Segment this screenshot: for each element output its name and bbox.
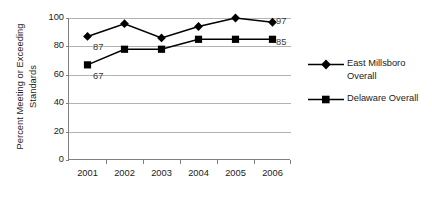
y-axis-title: Percent Meeting or Exceeding Standards [14, 7, 39, 167]
line-chart: Percent Meeting or Exceeding Standards 1… [0, 0, 432, 197]
data-point-2004-series2[interactable] [195, 36, 202, 43]
x-tick-2006: 2006 [251, 168, 295, 178]
point-label-delaware-2006: 85 [276, 37, 286, 47]
y-tick-20: 20 [36, 126, 64, 136]
point-label-delaware-2001: 67 [93, 71, 103, 81]
data-point-2004-series1[interactable] [194, 22, 203, 31]
data-point-2001-series1[interactable] [83, 32, 92, 41]
x-tickmark-2 [143, 160, 144, 164]
square-marker-icon [307, 92, 345, 105]
legend-label-delaware: Delaware Overall [347, 92, 418, 105]
plot-area: 2001 2002 2003 2004 2005 2006 87 67 97 8… [68, 18, 290, 160]
legend-item-east-millsboro[interactable]: East Millsboro Overall [307, 57, 432, 83]
data-point-2002-series1[interactable] [120, 19, 129, 28]
y-tick-0: 0 [36, 154, 64, 164]
point-label-east-2006: 97 [276, 16, 286, 26]
series-line-2 [88, 39, 273, 65]
chart-legend: East Millsboro Overall Delaware Overall [307, 57, 432, 107]
x-tickmark-4 [217, 160, 218, 164]
x-tickmark-6 [290, 160, 291, 164]
data-point-2005-series1[interactable] [231, 14, 240, 23]
data-series-layer [69, 18, 291, 160]
x-tickmark-3 [180, 160, 181, 164]
data-point-2003-series2[interactable] [158, 46, 165, 53]
diamond-marker-icon [307, 57, 345, 70]
series-line-1 [88, 18, 273, 38]
y-tick-60: 60 [36, 69, 64, 79]
legend-item-delaware[interactable]: Delaware Overall [307, 92, 432, 105]
point-label-east-2001: 87 [93, 42, 103, 52]
y-tick-80: 80 [36, 40, 64, 50]
legend-label-east-millsboro-line1: East Millsboro [347, 57, 405, 70]
y-tick-40: 40 [36, 97, 64, 107]
y-tickmark-0 [66, 160, 69, 161]
y-tick-100: 100 [36, 12, 64, 22]
data-point-2001-series2[interactable] [84, 61, 91, 68]
x-tickmark-5 [254, 160, 255, 164]
data-point-2005-series2[interactable] [232, 36, 239, 43]
data-point-2003-series1[interactable] [157, 33, 166, 42]
x-tickmark-1 [106, 160, 107, 164]
legend-label-east-millsboro-line2: Overall [347, 70, 376, 83]
data-point-2002-series2[interactable] [121, 46, 128, 53]
